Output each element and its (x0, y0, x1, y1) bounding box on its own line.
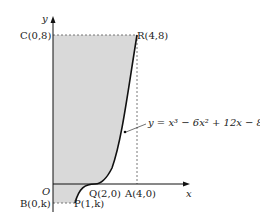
point-c-label: C(0,8) (20, 30, 51, 41)
curve-point-marker (124, 131, 127, 134)
shaded-region (53, 35, 137, 203)
point-b-label: B(0,k) (20, 198, 51, 209)
y-axis-label: y (41, 13, 48, 24)
y-axis-arrow-icon (51, 16, 56, 23)
x-axis-label: x (186, 188, 192, 199)
origin-label: O (42, 186, 50, 197)
point-p-label: P(1,k) (74, 198, 104, 209)
equation-label: y = x³ − 6x² + 12x − 8 (147, 117, 260, 128)
x-axis-arrow-icon (183, 182, 190, 187)
point-a-label: A(4,0) (124, 188, 156, 199)
diagram-canvas: y x O C(0,8) R(4,8) Q(2,0) A(4,0) B(0,k)… (0, 0, 260, 220)
point-r-label: R(4,8) (137, 30, 168, 41)
equation-pointer (126, 124, 146, 132)
